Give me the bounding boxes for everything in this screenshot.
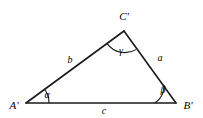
side-a-line — [124, 31, 176, 103]
angle-label-alpha: α — [44, 90, 49, 100]
side-label-b: b — [68, 55, 73, 65]
side-label-a: a — [158, 53, 163, 63]
triangle-diagram: A' B' C' a b c α β γ — [0, 0, 203, 118]
angle-label-beta: β — [161, 85, 166, 95]
triangle-figure — [0, 0, 203, 118]
angle-label-gamma: γ — [119, 46, 123, 56]
vertex-label-a: A' — [9, 100, 18, 111]
side-b-line — [26, 31, 124, 103]
vertex-label-b: B' — [183, 100, 192, 111]
vertex-label-c: C' — [119, 11, 129, 22]
side-label-c: c — [102, 106, 106, 116]
